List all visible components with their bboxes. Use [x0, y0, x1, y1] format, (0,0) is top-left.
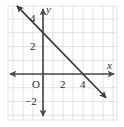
x-axis-tick-label-4: 4 — [80, 79, 86, 90]
y-axis-tick-label-2: 2 — [30, 41, 36, 52]
origin-label: O — [32, 79, 40, 90]
y-axis-tick-label-minus-2: −2 — [25, 96, 37, 107]
x-axis-label: x — [107, 60, 112, 71]
y-axis-label: y — [46, 4, 51, 15]
x-axis-tick-label-2: 2 — [60, 79, 66, 90]
coordinate-plane-figure: 4 2 −2 2 4 O x y — [0, 0, 124, 127]
y-axis-tick-label-4: 4 — [30, 13, 36, 24]
graph-canvas — [0, 0, 124, 127]
